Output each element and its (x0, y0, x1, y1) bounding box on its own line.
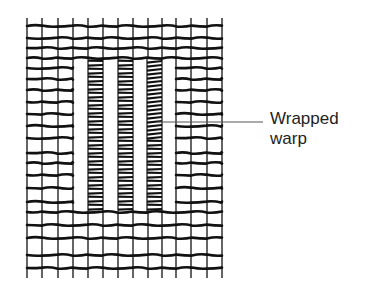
wrap-turn (88, 185, 103, 186)
wrap-turn (147, 69, 162, 71)
wrap-turn (147, 105, 162, 107)
label-line-2: warp (270, 130, 339, 148)
wrap-turn (147, 109, 162, 111)
wrap-turn (118, 145, 133, 146)
weft-thread (27, 237, 222, 239)
wrap-turn (147, 89, 162, 91)
weft-thread (27, 254, 222, 256)
wrap-turn (118, 105, 133, 106)
wrap-turn (88, 129, 103, 130)
wrap-turn (88, 89, 103, 90)
wrap-turn (88, 169, 103, 170)
wrap-turn (88, 121, 103, 122)
wrapped-warp-bundle (118, 58, 133, 212)
weft-thread (176, 67, 222, 69)
wrap-turn (118, 129, 133, 130)
weft-thread (176, 174, 222, 176)
wrap-turn (88, 209, 103, 210)
wrap-turn (147, 77, 162, 79)
weft-thread (176, 162, 222, 164)
wrap-turn (147, 73, 162, 75)
wrap-turn (88, 145, 103, 146)
weft-thread (27, 57, 222, 59)
weft-thread (27, 37, 222, 39)
weft-thread (176, 152, 222, 154)
weft-thread (176, 89, 222, 91)
wrapped-warp-bundles (88, 58, 162, 212)
wrap-turn (118, 185, 133, 186)
wrap-turn (88, 153, 103, 154)
wrap-turn (88, 193, 103, 194)
wrap-turn (88, 201, 103, 202)
weft-thread (176, 101, 222, 103)
wrap-turn (118, 193, 133, 194)
wrap-turn (147, 125, 162, 127)
weft-thread (27, 101, 73, 103)
wrap-turn (118, 153, 133, 154)
wrap-turn (147, 193, 162, 194)
wrapped-warp-bundle (88, 58, 103, 212)
weft-thread (27, 25, 222, 27)
wrap-turn (147, 93, 162, 95)
wrap-turn (118, 161, 133, 162)
weft-thread (176, 78, 222, 80)
wrap-turn (147, 145, 162, 146)
wrap-turn (147, 153, 162, 154)
wrap-turn (118, 169, 133, 170)
weft-thread (27, 113, 73, 115)
wrap-turn (118, 201, 133, 202)
wrap-turn (118, 177, 133, 178)
weft-thread (27, 137, 73, 139)
wrap-turn (88, 97, 103, 98)
wrap-turn (88, 177, 103, 178)
weft-thread (176, 201, 222, 203)
label-wrapped-warp: Wrapped warp (270, 110, 339, 148)
weft-thread (27, 162, 73, 164)
wrap-turn (147, 169, 162, 170)
weft-thread (27, 211, 222, 213)
wrap-turn (147, 185, 162, 186)
weft-thread (27, 89, 73, 91)
wrap-turn (88, 161, 103, 162)
wrap-turn (88, 113, 103, 114)
weft-thread (27, 267, 222, 269)
wrap-turn (147, 113, 162, 115)
wrap-turn (118, 81, 133, 82)
wrap-turn (118, 137, 133, 138)
weft-thread (27, 224, 222, 226)
wrap-turn (147, 133, 162, 135)
wrap-turn (118, 65, 133, 66)
wrap-turn (147, 137, 162, 139)
wrap-turn (147, 97, 162, 99)
wrap-turn (147, 129, 162, 131)
wrap-turn (147, 61, 162, 63)
weft-thread (176, 125, 222, 127)
weft-thread (27, 47, 222, 49)
weft-thread (27, 174, 73, 176)
wrapped-warp-bundle (147, 58, 162, 212)
wrap-turn (118, 73, 133, 74)
wrap-turn (88, 137, 103, 138)
weft-thread (176, 113, 222, 115)
wrap-turn (88, 105, 103, 106)
wrap-turn (147, 101, 162, 103)
wrap-turn (147, 65, 162, 67)
wrap-turn (147, 85, 162, 87)
wrap-turn (118, 89, 133, 90)
wrap-turn (147, 81, 162, 83)
weft-thread (27, 125, 73, 127)
wrap-turn (147, 209, 162, 210)
label-line-1: Wrapped (270, 110, 339, 128)
wrap-turn (147, 177, 162, 178)
wrap-turn (118, 209, 133, 210)
wrap-turn (88, 73, 103, 74)
wrap-turn (118, 113, 133, 114)
weft-thread (176, 137, 222, 139)
weft-thread (176, 187, 222, 189)
wrap-turn (88, 81, 103, 82)
wrap-turn (147, 117, 162, 119)
wrap-turn (118, 121, 133, 122)
wrap-turn (88, 65, 103, 66)
weft-thread (27, 187, 73, 189)
wrap-turn (147, 161, 162, 162)
